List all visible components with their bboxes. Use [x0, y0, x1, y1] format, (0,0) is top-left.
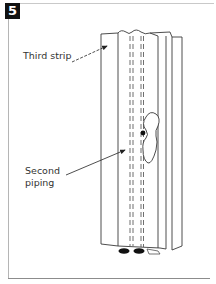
strip-illustration: [0, 0, 216, 284]
snap-dot: [141, 131, 146, 136]
piping-bead: [119, 248, 161, 254]
strip-outline: [101, 30, 182, 250]
keyhole-shape: [143, 113, 159, 164]
stitching-lines: [130, 36, 144, 247]
arrow-icon: [66, 46, 125, 175]
